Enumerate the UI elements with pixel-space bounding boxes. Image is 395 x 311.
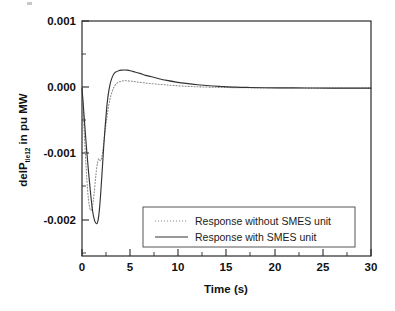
legend[interactable]: Response without SMES unit Response with… bbox=[143, 207, 355, 247]
legend-label-without-smes: Response without SMES unit bbox=[195, 215, 331, 227]
x-tick-label-3: 15 bbox=[220, 261, 233, 273]
y-tick-label-0: 0.001 bbox=[47, 15, 76, 27]
y-axis-title: delPtie12 in pu MW bbox=[17, 93, 31, 187]
x-tick-label-6: 30 bbox=[365, 261, 378, 273]
x-axis-title: Time (s) bbox=[204, 283, 248, 295]
y-tick-label-1: 0.000 bbox=[47, 81, 76, 93]
x-tick-label-0: 0 bbox=[79, 261, 85, 273]
legend-label-with-smes: Response with SMES unit bbox=[195, 231, 316, 243]
x-tick-label-1: 5 bbox=[127, 261, 134, 273]
y-axis-title-subscript: tie12 bbox=[24, 147, 31, 162]
y-tick-label-3: -0.002 bbox=[43, 214, 76, 226]
x-tick-label-5: 25 bbox=[317, 261, 330, 273]
y-axis-title-main: delP bbox=[17, 162, 29, 187]
x-tick-label-4: 20 bbox=[269, 261, 282, 273]
y-axis-title-tail: in pu MW bbox=[17, 93, 29, 147]
scan-artifact bbox=[27, 2, 32, 5]
chart-figure: 0.001 0.000 -0.001 -0.002 0 5 10 15 bbox=[0, 0, 395, 311]
y-tick-label-2: -0.001 bbox=[43, 147, 76, 159]
x-tick-label-2: 10 bbox=[172, 261, 185, 273]
svg-text:delPtie12 in pu MW: delPtie12 in pu MW bbox=[17, 93, 31, 187]
tie-line-power-deviation-chart: 0.001 0.000 -0.001 -0.002 0 5 10 15 bbox=[0, 0, 395, 311]
